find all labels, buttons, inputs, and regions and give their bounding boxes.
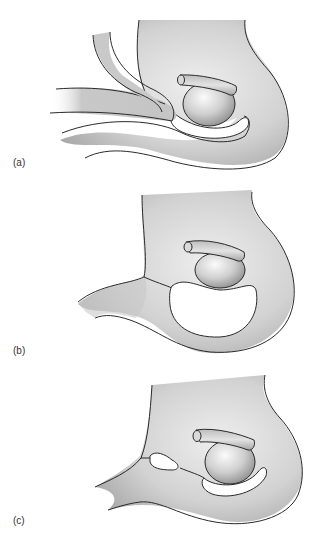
panel-label-c: (c) — [13, 515, 25, 526]
limb-fade — [78, 277, 146, 318]
panel-b: (b) — [0, 180, 320, 360]
panel-label-b: (b) — [13, 345, 25, 356]
main-tissue-mass — [95, 375, 302, 522]
illustration-b — [0, 180, 320, 360]
panel-a: (a) — [0, 0, 320, 180]
tube-end — [184, 242, 192, 252]
panel-c: (c) — [0, 360, 320, 541]
tube-end — [193, 431, 201, 442]
tube-end — [178, 75, 185, 85]
panel-label-a: (a) — [13, 157, 25, 168]
illustration-c — [0, 360, 320, 541]
illustration-a — [0, 0, 320, 180]
